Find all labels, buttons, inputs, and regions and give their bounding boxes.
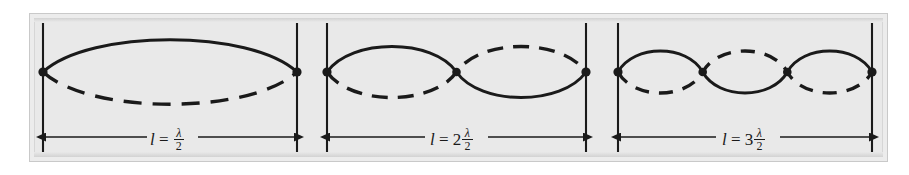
panel-3-node-dot [613, 67, 622, 76]
panel-3-coefficient: 3 [745, 130, 755, 150]
panel-3-fraction-denominator: 2 [754, 139, 764, 152]
panel-3-length-symbol: l [722, 130, 731, 150]
panel-1-dimension-label: l = λ 2 [150, 127, 184, 152]
panel-3-fraction: λ 2 [754, 127, 764, 152]
panel-1-fraction-numerator: λ [174, 127, 183, 139]
panel-1-fraction-denominator: 2 [174, 139, 184, 152]
panel-1-node-dot [292, 67, 301, 76]
panel-2-node-dot [452, 68, 461, 77]
panel-1-fraction: λ 2 [174, 127, 184, 152]
panel-1-node-dot [38, 67, 47, 76]
panel-1-dashed-wave [43, 72, 297, 104]
panel-2-fraction: λ 2 [462, 127, 472, 152]
panel-3-node-dot [698, 68, 707, 77]
panel-3-solid-wave [618, 51, 872, 93]
panel-3-node-dot [783, 68, 792, 77]
panel-3-equals-sign: = [731, 130, 745, 150]
panel-2-length-symbol: l [430, 130, 439, 150]
panel-2-coefficient: 2 [453, 130, 463, 150]
panel-2-dimension-label: l = 2 λ 2 [430, 127, 473, 152]
panel-3-dimension-label: l = 3 λ 2 [722, 127, 765, 152]
panel-2-fraction-numerator: λ [463, 127, 472, 139]
panel-2-node-dot [581, 67, 590, 76]
panel-1-solid-wave [43, 40, 297, 72]
panel-1-length-symbol: l [150, 130, 159, 150]
panel-3-dashed-wave [618, 51, 872, 93]
panel-3-fraction-numerator: λ [755, 127, 764, 139]
panel-1-equals-sign: = [159, 130, 173, 150]
standing-wave-figure: l = λ 2 l = 2 λ 2 l = 3 λ 2 [0, 0, 909, 175]
panel-3-node-dot [867, 67, 876, 76]
panel-2-equals-sign: = [439, 130, 453, 150]
panel-2-fraction-denominator: 2 [462, 139, 472, 152]
panel-2-node-dot [322, 67, 331, 76]
